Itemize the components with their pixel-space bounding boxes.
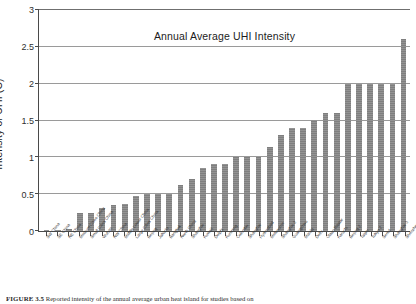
bar-slot xyxy=(231,10,242,231)
bar-slot xyxy=(309,10,320,231)
bar-slot xyxy=(365,10,376,231)
bar-slot xyxy=(108,10,119,231)
bar-series xyxy=(40,10,410,231)
y-axis-tick-mark xyxy=(35,46,39,47)
chart-area: Intensity of UHI (C) Annual Average UHI … xyxy=(0,0,416,245)
x-axis-label-slot: Delhi xyxy=(309,236,320,288)
y-axis-tick-label: 2 xyxy=(0,80,34,89)
x-axis-label-slot: Wuhan xyxy=(96,236,107,288)
x-axis-label-slot: Kuwait xyxy=(197,236,208,288)
bar-slot xyxy=(52,10,63,231)
bar[interactable] xyxy=(256,157,262,231)
bar-slot xyxy=(41,10,52,231)
x-axis-label-slot: Tokyo 2 xyxy=(365,236,376,288)
y-axis-tick-label: 1.5 xyxy=(0,117,34,126)
bar-slot xyxy=(175,10,186,231)
x-axis-label-slot: Shanghai 2 xyxy=(276,236,287,288)
bar[interactable] xyxy=(334,113,340,231)
bar-slot xyxy=(153,10,164,231)
bar-slot xyxy=(331,10,342,231)
bar-slot xyxy=(74,10,85,231)
bar-slot xyxy=(197,10,208,231)
x-axis-label-slot: Beijing 2 xyxy=(343,236,354,288)
bar-slot xyxy=(220,10,231,231)
x-axis-label-slot: Large Cities China xyxy=(130,236,141,288)
figure-number: FIGURE 3.5 xyxy=(6,295,44,302)
bar-slot xyxy=(298,10,309,231)
bar[interactable] xyxy=(367,84,373,231)
x-axis-label-slot: Guangzhou xyxy=(287,236,298,288)
x-axis-label-slot: Karachi xyxy=(332,236,343,288)
bar-slot xyxy=(242,10,253,231)
bar[interactable] xyxy=(278,135,284,231)
x-axis-label-slot: Middle Lower China xyxy=(119,236,130,288)
bar[interactable] xyxy=(390,84,396,231)
bar-slot xyxy=(264,10,275,231)
x-axis-label-slot: Bangkok xyxy=(163,236,174,288)
bar[interactable] xyxy=(378,84,384,231)
bar-slot xyxy=(253,10,264,231)
x-axis-label-slot: Ulaan Baatar xyxy=(320,236,331,288)
y-axis-tick-mark xyxy=(35,83,39,84)
x-axis-label-slot: SW China xyxy=(40,236,51,288)
bar-slot xyxy=(208,10,219,231)
bar-slot xyxy=(275,10,286,231)
figure-container: Intensity of UHI (C) Annual Average UHI … xyxy=(0,0,416,304)
x-axis-label-slot: SE China xyxy=(51,236,62,288)
x-axis-label-slot: Shanghai 3 xyxy=(388,236,399,288)
y-axis-tick-mark xyxy=(35,120,39,121)
bar[interactable] xyxy=(356,84,362,231)
figure-caption: FIGURE 3.5 Reported intensity of the ann… xyxy=(6,295,410,303)
bar[interactable] xyxy=(401,39,407,231)
x-axis-label-slot: Colombo xyxy=(231,236,242,288)
bar-slot xyxy=(320,10,331,231)
y-axis-tick-label: 1 xyxy=(0,154,34,163)
bar[interactable] xyxy=(233,157,239,231)
x-axis-label-slot: Manila xyxy=(298,236,309,288)
y-axis-tick-label: 2.5 xyxy=(0,43,34,52)
x-axis-label-slot: Shenzhen xyxy=(399,236,410,288)
bar[interactable] xyxy=(311,120,317,231)
bar-slot xyxy=(119,10,130,231)
x-axis-label-slot: Seoul xyxy=(377,236,388,288)
y-axis-tick-mark xyxy=(35,156,39,157)
x-axis-tick-labels: SW ChinaSE ChinaNE ChinaMedium Cities Ch… xyxy=(39,236,411,288)
x-axis-label-slot: Hyderabad xyxy=(253,236,264,288)
x-axis-label-slot: Shanghai xyxy=(186,236,197,288)
bar-slot xyxy=(63,10,74,231)
x-axis-label-slot: NW China xyxy=(107,236,118,288)
x-axis-label-slot: NE China xyxy=(62,236,73,288)
x-axis-label-slot: Taipei xyxy=(354,236,365,288)
y-axis-tick-label: 0.5 xyxy=(0,191,34,200)
bar[interactable] xyxy=(345,84,351,231)
bar-slot xyxy=(164,10,175,231)
bar[interactable] xyxy=(211,164,217,231)
bar[interactable] xyxy=(300,128,306,231)
y-axis-tick-mark xyxy=(35,9,39,10)
x-axis-label-slot: Kunming xyxy=(220,236,231,288)
bar-slot xyxy=(86,10,97,231)
bar[interactable] xyxy=(323,113,329,231)
bar-slot xyxy=(186,10,197,231)
bar[interactable] xyxy=(222,164,228,231)
x-axis-label-slot: Melbourne xyxy=(264,236,275,288)
bar[interactable] xyxy=(267,147,273,231)
bar-slot xyxy=(130,10,141,231)
bar-slot xyxy=(353,10,364,231)
bar-slot xyxy=(398,10,409,231)
y-axis-tick-label: 3 xyxy=(0,6,34,15)
x-axis-label-slot: Delphi xyxy=(208,236,219,288)
x-axis-label-slot: Shanghai xyxy=(242,236,253,288)
x-axis-label-slot: Beijing xyxy=(141,236,152,288)
bar-slot xyxy=(387,10,398,231)
bar[interactable] xyxy=(289,128,295,231)
figure-caption-text: Reported intensity of the annual average… xyxy=(46,295,254,302)
x-axis-label-slot: Medium Cities China xyxy=(74,236,85,288)
bar-slot xyxy=(342,10,353,231)
x-axis-label-slot: North China xyxy=(175,236,186,288)
y-axis-tick-label: 0 xyxy=(0,228,34,237)
bar-slot xyxy=(376,10,387,231)
x-axis-label-slot: Small Cities China xyxy=(85,236,96,288)
bar[interactable] xyxy=(244,157,250,231)
bar-slot xyxy=(286,10,297,231)
